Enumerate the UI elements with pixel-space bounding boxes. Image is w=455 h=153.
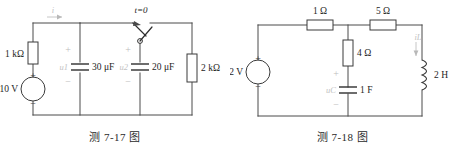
capacitor-1f-voltage-label: uC: [326, 85, 336, 95]
source-12v-plus-sign: +: [255, 53, 261, 64]
circuit-canvas-7-17: 1 kΩ + − 10 V 30 μF u1 + − 20 μF u2 +: [0, 0, 230, 128]
current-arrow-head: [57, 15, 62, 20]
resistor-2k-body: [187, 54, 197, 82]
resistor-5ohm-body: [370, 20, 396, 30]
capacitor-20uf-label: 20 μF: [152, 62, 174, 72]
resistor-1k-body: [28, 42, 38, 64]
resistor-1k-label: 1 kΩ: [5, 49, 24, 59]
circuit-canvas-7-18: 1 Ω 5 Ω 4 Ω 1 F uC + − + − 12 V: [230, 0, 455, 128]
capacitor-20uf-plus-sign: +: [125, 44, 131, 55]
capacitor-1f-minus-sign: −: [333, 99, 339, 110]
voltage-source-10v-label: 10 V: [0, 84, 18, 94]
inductor-current-arrow-head: [414, 51, 419, 57]
resistor-1ohm-label: 1 Ω: [313, 6, 327, 16]
switch-blade[interactable]: [140, 27, 152, 41]
capacitor-30uf-voltage-label: u1: [60, 62, 69, 72]
capacitor-30uf-plus-sign: +: [65, 44, 71, 55]
figure-sheet: 1 kΩ + − 10 V 30 μF u1 + − 20 μF u2 +: [0, 0, 455, 153]
source-plus-sign: +: [30, 70, 36, 81]
resistor-4ohm-label: 4 Ω: [357, 48, 371, 58]
figure-7-17: 1 kΩ + − 10 V 30 μF u1 + − 20 μF u2 +: [0, 0, 230, 153]
capacitor-20uf-voltage-label: u2: [120, 62, 129, 72]
switch-actuation-arrow: [133, 21, 141, 26]
capacitor-30uf-minus-sign: −: [65, 76, 71, 87]
capacitor-20uf-minus-sign: −: [125, 76, 131, 87]
inductor-2h-label: 2 H: [434, 70, 448, 80]
resistor-1ohm-body: [307, 20, 333, 30]
inductor-current-label: iL: [414, 32, 421, 42]
capacitor-30uf-label: 30 μF: [92, 62, 114, 72]
figure-7-18: 1 Ω 5 Ω 4 Ω 1 F uC + − + − 12 V: [230, 0, 455, 153]
voltage-source-12v-label: 12 V: [230, 67, 243, 77]
source-minus-sign: −: [30, 98, 36, 109]
capacitor-1f-plus-sign: +: [333, 68, 339, 79]
resistor-2k-label: 2 kΩ: [201, 63, 220, 73]
switch-t0-label: t=0: [134, 5, 148, 15]
figure-7-18-caption: 测 7-18 图: [230, 128, 455, 144]
source-12v-minus-sign: −: [255, 81, 261, 92]
figure-7-17-caption: 测 7-17 图: [0, 128, 230, 144]
current-label-i: i: [52, 5, 55, 15]
resistor-5ohm-label: 5 Ω: [376, 6, 390, 16]
capacitor-1f-label: 1 F: [360, 85, 372, 95]
inductor-2h-coil: [422, 60, 427, 90]
resistor-4ohm-body: [343, 40, 353, 66]
